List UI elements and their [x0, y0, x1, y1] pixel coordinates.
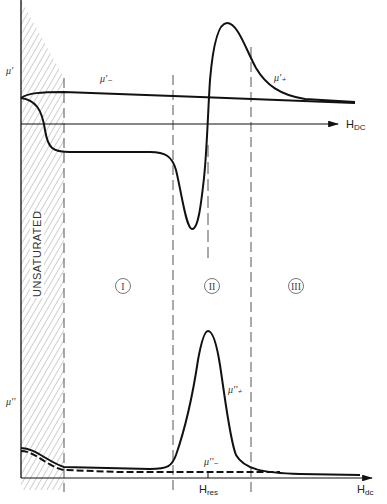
- curve-mu-dprime-plus: [21, 331, 360, 475]
- label-mu-dprime-plus: μ''₊: [227, 384, 243, 395]
- lower-y-axis-label: μ'': [5, 396, 16, 407]
- curve-mu-prime-plus: [21, 23, 355, 229]
- upper-x-axis-label: HDC: [346, 118, 366, 132]
- permeability-diagram: UNSATURATED HDC μ' μ'₋ μ'₊ I II III Hdc …: [0, 0, 387, 504]
- region-I-marker: I: [116, 279, 131, 294]
- region-boundaries: [64, 47, 251, 492]
- region-II-marker: II: [205, 279, 220, 294]
- svg-text:III: III: [291, 281, 301, 292]
- svg-text:II: II: [209, 281, 216, 292]
- hres-label: Hres: [199, 483, 218, 497]
- svg-text:I: I: [121, 281, 124, 292]
- lower-x-axis-label: Hdc: [357, 483, 373, 497]
- unsaturated-region: UNSATURATED: [21, 0, 64, 490]
- unsaturated-label: UNSATURATED: [31, 211, 43, 297]
- label-mu-prime-minus: μ'₋: [99, 73, 113, 84]
- upper-y-axis-label: μ': [5, 65, 14, 76]
- label-mu-dprime-minus: μ''₋: [203, 456, 219, 467]
- region-III-marker: III: [289, 279, 304, 294]
- label-mu-prime-plus: μ'₊: [273, 72, 287, 83]
- curve-mu-prime-minus: [21, 92, 355, 103]
